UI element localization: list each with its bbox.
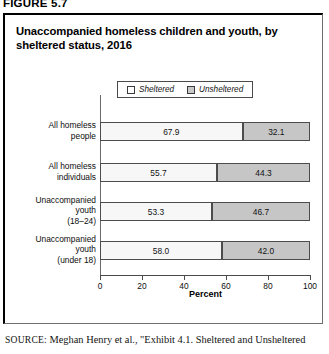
bar-row: 58.042.0 [100,241,310,260]
x-axis-tick [142,276,143,280]
bar-segment-sheltered: 55.7 [100,163,217,182]
x-axis-line [100,275,311,276]
source-note: SOURCE: Meghan Henry et al., "Exhibit 4.… [5,334,327,346]
category-label: All homelesspeople [6,120,96,141]
source-kicker: SOURCE: [5,334,47,345]
x-axis-tick [100,276,101,280]
bar-row: 55.744.3 [100,163,310,182]
category-label: All homelessindividuals [6,161,96,182]
category-label-line: youth [6,205,96,215]
x-axis-tick [226,276,227,280]
bar-segment-unsheltered: 46.7 [212,202,310,221]
x-axis-tick [268,276,269,280]
bar-segment-sheltered: 53.3 [100,202,212,221]
bar-segment-unsheltered: 42.0 [222,241,310,260]
category-label-line: (18–24) [6,216,96,226]
figure-number: FIGURE 5.7 [3,0,68,9]
category-label: Unaccompaniedyouth(under 18) [6,234,96,265]
category-label-line: All homeless [6,161,96,171]
bar-segment-sheltered: 67.9 [100,122,243,141]
category-label-line: Unaccompanied [6,234,96,244]
legend-item-unsheltered: Unsheltered [187,85,243,94]
bar-row: 53.346.7 [100,202,310,221]
x-axis-title: Percent [100,289,311,299]
legend-swatch-sheltered-icon [127,86,135,94]
legend-swatch-unsheltered-icon [187,86,195,94]
category-label-line: All homeless [6,120,96,130]
bar-row: 67.932.1 [100,122,310,141]
legend-item-sheltered: Sheltered [127,85,174,94]
x-axis-tick [184,276,185,280]
bar-segment-unsheltered: 32.1 [243,122,310,141]
category-label-line: youth [6,244,96,254]
category-label-line: Unaccompanied [6,195,96,205]
category-label: Unaccompaniedyouth(18–24) [6,195,96,226]
x-axis-tick [310,276,311,280]
legend-label-sheltered: Sheltered [139,85,174,94]
chart-title: Unaccompanied homeless children and yout… [16,24,316,53]
bar-segment-sheltered: 58.0 [100,241,222,260]
source-text: Meghan Henry et al., "Exhibit 4.1. Shelt… [47,334,305,345]
category-label-line: people [6,131,96,141]
bar-segment-unsheltered: 44.3 [217,163,310,182]
legend-label-unsheltered: Unsheltered [199,85,243,94]
category-label-line: (under 18) [6,255,96,265]
category-label-line: individuals [6,172,96,182]
plot-area: 020406080100 67.932.155.744.353.346.758.… [100,95,310,275]
